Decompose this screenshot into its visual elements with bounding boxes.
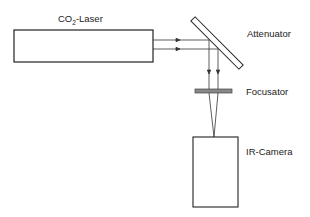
horizontal-beams <box>153 38 218 50</box>
focused-beams <box>209 93 218 137</box>
focusator-plate <box>195 89 232 93</box>
ir-camera-box <box>193 137 238 207</box>
attenuator-label: Attenuator <box>247 28 291 39</box>
optical-setup-diagram: CO2-Laser Attenuator Focusator IR-Camera <box>0 0 310 217</box>
attenuator-plate <box>191 17 243 69</box>
ir-camera-label: IR-Camera <box>246 146 293 157</box>
laser-label: CO2-Laser <box>58 13 103 26</box>
co2-laser-box <box>14 30 153 62</box>
focusator-label: Focusator <box>246 86 288 97</box>
